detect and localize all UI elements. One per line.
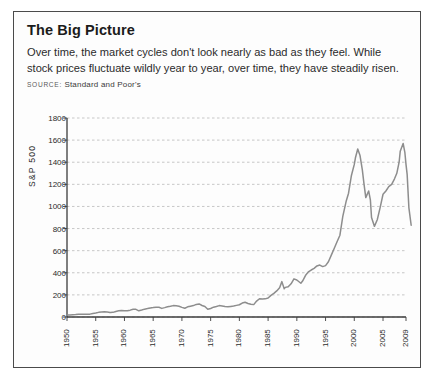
chart-card: The Big Picture Over time, the market cy…	[13, 11, 421, 368]
x-tick-label: 2009	[401, 329, 410, 347]
x-tick-label: 2005	[378, 329, 387, 347]
x-tick-label: 1950	[62, 329, 71, 347]
x-axis-tick-labels: 1950195519601965197019751980198519901995…	[14, 12, 422, 369]
chart-plot-area: S&P 500 18001600140012001000800600400200…	[14, 12, 422, 369]
x-tick-label: 1960	[119, 329, 128, 347]
x-tick-label: 1980	[234, 329, 243, 347]
x-tick-label: 1955	[91, 329, 100, 347]
x-tick-label: 1970	[177, 329, 186, 347]
x-tick-label: 2000	[349, 329, 358, 347]
x-tick-label: 1975	[206, 329, 215, 347]
x-tick-label: 1965	[148, 329, 157, 347]
x-tick-label: 1985	[263, 329, 272, 347]
x-tick-label: 1990	[292, 329, 301, 347]
x-tick-label: 1995	[321, 329, 330, 347]
